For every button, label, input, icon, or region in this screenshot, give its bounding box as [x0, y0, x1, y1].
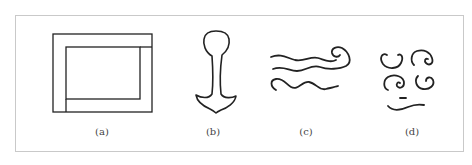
caption-d: (d) [392, 126, 432, 137]
caption-a: (a) [82, 126, 122, 137]
panel-a-rectangles [53, 34, 152, 112]
panel-c-waves [271, 47, 350, 90]
figure-drawings [0, 0, 472, 165]
caption-c: (c) [286, 126, 326, 137]
panel-b-anchor [196, 31, 236, 113]
panel-d-spirals [381, 50, 433, 110]
caption-b: (b) [193, 126, 233, 137]
